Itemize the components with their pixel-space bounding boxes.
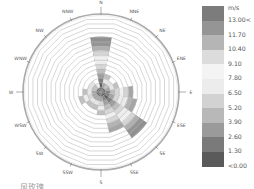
- legend-label: 5.20: [228, 104, 242, 111]
- legend-swatch: [202, 35, 224, 50]
- legend-label: 13.00<: [228, 16, 251, 23]
- direction-label-ene: ENE: [177, 56, 186, 61]
- legend-label: 10.40: [228, 45, 246, 52]
- direction-label-se: SE: [160, 151, 166, 156]
- legend-swatch: [202, 79, 224, 94]
- legend-label: 2.60: [228, 133, 242, 140]
- legend-swatch: [202, 21, 224, 36]
- direction-label-nw: NW: [35, 28, 43, 33]
- legend-swatch: [202, 108, 224, 123]
- direction-label-wnw: WNW: [14, 56, 27, 61]
- direction-label-n: N: [99, 0, 102, 5]
- legend-label: 1.30: [228, 147, 242, 154]
- legend-label: 9.10: [228, 60, 242, 67]
- legend-swatch: [202, 94, 224, 109]
- direction-label-nnw: NNW: [62, 9, 74, 14]
- legend-label: 6.50: [228, 89, 242, 96]
- legend-swatch: [202, 50, 224, 65]
- legend-label: <0.00: [228, 162, 247, 169]
- direction-label-sw: SW: [36, 151, 44, 156]
- direction-label-nne: NNE: [129, 9, 139, 14]
- direction-label-w: W: [9, 90, 14, 95]
- legend-swatch: [202, 123, 224, 138]
- direction-label-sse: SSE: [130, 170, 139, 175]
- wind-rose-chart: NNNENEENEEESESESSESSSWSWWSWWWNWNWNNW: [0, 0, 200, 189]
- legend-unit: m/s: [228, 4, 239, 11]
- direction-label-e: E: [190, 90, 193, 95]
- chart-caption: 风玫瑰: [20, 181, 44, 189]
- direction-label-wsw: WSW: [15, 123, 27, 128]
- direction-label-ne: NE: [159, 28, 165, 33]
- legend-label: 11.70: [228, 31, 246, 38]
- legend-label: 3.90: [228, 118, 242, 125]
- legend-swatch: [202, 64, 224, 79]
- direction-label-ssw: SSW: [63, 170, 74, 175]
- legend-swatch: [202, 152, 224, 167]
- direction-label-s: S: [100, 180, 103, 185]
- legend-color-bar: [202, 6, 224, 167]
- legend-label: 7.80: [228, 74, 242, 81]
- legend-swatch: [202, 6, 224, 21]
- direction-label-ese: ESE: [177, 123, 186, 128]
- legend-swatch: [202, 137, 224, 152]
